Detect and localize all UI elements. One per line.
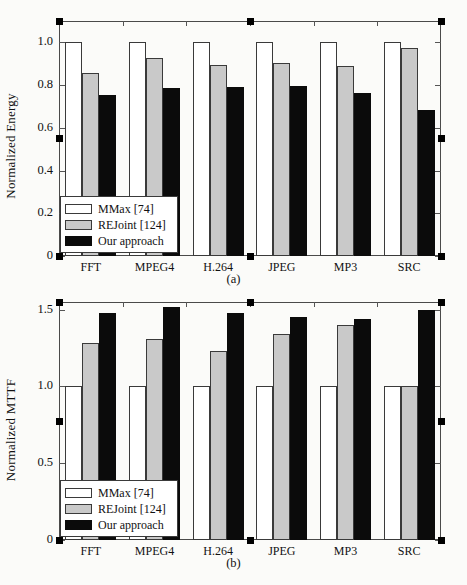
bar-h264-series2	[227, 313, 244, 540]
selection-handle-7[interactable]	[438, 537, 445, 544]
bar-h264-series2	[227, 87, 244, 256]
y-axis-tick-mark	[59, 128, 65, 129]
black-swatch-icon	[65, 520, 92, 530]
legend-item-label: Our approach	[98, 235, 164, 247]
bar-jpeg-series1	[273, 63, 290, 256]
selection-handle-4[interactable]	[438, 135, 445, 142]
bar-mp3-series0	[320, 386, 337, 540]
y-axis-tick-mark	[59, 85, 65, 86]
legend-item-label: REJoint [124]	[98, 219, 166, 231]
selection-handle-5[interactable]	[56, 537, 63, 544]
selection-handle-5[interactable]	[56, 253, 63, 260]
selection-handle-2[interactable]	[438, 18, 445, 25]
bar-src-series0	[384, 386, 401, 540]
y-axis-tick-label: 1.0	[3, 378, 53, 393]
y-axis-tick-mark	[435, 85, 441, 86]
panel-caption-b: (b)	[0, 556, 467, 571]
bar-jpeg-series2	[290, 86, 307, 256]
legend-item: MMax [74]	[65, 201, 172, 216]
y-axis-tick-label: 1.5	[3, 302, 53, 317]
bar-src-series1	[401, 48, 418, 256]
white-swatch-icon	[65, 204, 92, 214]
bar-mp3-series1	[337, 325, 354, 540]
y-axis-tick-mark	[59, 42, 65, 43]
gray-swatch-icon	[65, 220, 92, 230]
y-axis-tick-mark	[59, 463, 65, 464]
selection-handle-3[interactable]	[56, 135, 63, 142]
bar-h264-series0	[193, 386, 210, 540]
legend-item: Our approach	[65, 233, 172, 248]
selection-handle-6[interactable]	[247, 537, 254, 544]
y-axis-tick-mark	[435, 42, 441, 43]
x-axis-tick-mark	[123, 21, 124, 26]
x-axis-tick-mark	[314, 302, 315, 307]
y-axis-tick-mark	[59, 171, 65, 172]
y-axis-tick-mark	[59, 386, 65, 387]
bar-jpeg-series0	[256, 42, 273, 256]
legend-item: REJoint [124]	[65, 501, 172, 516]
bar-src-series2	[418, 310, 435, 540]
selection-handle-0[interactable]	[56, 299, 63, 306]
bar-jpeg-series2	[290, 317, 307, 540]
bar-jpeg-series1	[273, 334, 290, 540]
selection-handle-7[interactable]	[438, 253, 445, 260]
y-axis-tick-mark	[435, 213, 441, 214]
x-axis-tick-mark	[123, 302, 124, 307]
bar-mp3-series2	[354, 319, 371, 540]
x-axis-tick-mark	[314, 21, 315, 26]
white-swatch-icon	[65, 488, 92, 498]
y-axis-tick-mark	[59, 310, 65, 311]
selection-handle-4[interactable]	[438, 418, 445, 425]
legend-a: MMax [74] REJoint [124] Our approach	[60, 196, 178, 253]
legend-item: Our approach	[65, 517, 172, 532]
selection-handle-1[interactable]	[247, 299, 254, 306]
y-axis-label-a: Normalized Energy	[3, 76, 19, 216]
selection-handle-3[interactable]	[56, 418, 63, 425]
bar-src-series0	[384, 42, 401, 256]
legend-item-label: MMax [74]	[98, 203, 154, 215]
x-axis-tick-mark	[377, 302, 378, 307]
x-axis-tick-mark	[186, 21, 187, 26]
x-axis-tick-mark	[377, 21, 378, 26]
bar-src-series2	[418, 110, 435, 256]
bar-src-series1	[401, 386, 418, 540]
y-axis-tick-label: 0.2	[3, 205, 53, 220]
y-axis-tick-label: 0.5	[3, 455, 53, 470]
selection-handle-0[interactable]	[56, 18, 63, 25]
panel-caption-a: (a)	[0, 272, 467, 287]
y-axis-tick-label: 0.8	[3, 77, 53, 92]
y-axis-tick-label: 0.6	[3, 120, 53, 135]
x-axis-tick-mark	[186, 302, 187, 307]
y-axis-tick-mark	[435, 171, 441, 172]
legend-b: MMax [74] REJoint [124] Our approach	[60, 480, 178, 537]
selection-handle-6[interactable]	[247, 253, 254, 260]
y-axis-tick-mark	[435, 386, 441, 387]
y-axis-tick-label: 0.4	[3, 163, 53, 178]
gray-swatch-icon	[65, 504, 92, 514]
panel-a-normalized-energy: Normalized Energy 00.20.40.60.81.0 FFTMP…	[0, 0, 467, 295]
y-axis-tick-mark	[435, 310, 441, 311]
panel-b-normalized-mttf: Normalized MTTF 00.51.01.5 FFTMPEG4H.264…	[0, 292, 467, 585]
bar-mp3-series2	[354, 93, 371, 256]
bar-h264-series1	[210, 351, 227, 540]
y-axis-tick-mark	[435, 128, 441, 129]
legend-item: REJoint [124]	[65, 217, 172, 232]
legend-item-label: Our approach	[98, 519, 164, 531]
legend-item-label: REJoint [124]	[98, 503, 166, 515]
y-axis-tick-label: 0	[3, 532, 53, 547]
bar-h264-series1	[210, 65, 227, 256]
black-swatch-icon	[65, 236, 92, 246]
bar-mp3-series1	[337, 66, 354, 256]
legend-item: MMax [74]	[65, 485, 172, 500]
bar-jpeg-series0	[256, 386, 273, 540]
y-axis-tick-label: 1.0	[3, 34, 53, 49]
bar-mp3-series0	[320, 42, 337, 256]
legend-item-label: MMax [74]	[98, 487, 154, 499]
selection-handle-2[interactable]	[438, 299, 445, 306]
y-axis-tick-mark	[435, 463, 441, 464]
selection-handle-1[interactable]	[247, 18, 254, 25]
bar-h264-series0	[193, 42, 210, 256]
figure-container: Normalized Energy 00.20.40.60.81.0 FFTMP…	[0, 0, 467, 585]
y-axis-tick-label: 0	[3, 248, 53, 263]
